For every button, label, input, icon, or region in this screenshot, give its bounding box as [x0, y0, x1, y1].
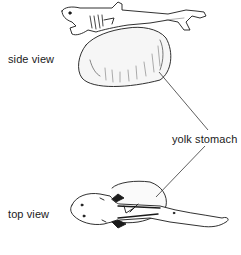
top-view-embryo [71, 181, 228, 228]
leader-line-side [159, 72, 208, 130]
side-yolk-sac [79, 27, 171, 86]
top-view-label: top view [8, 208, 49, 220]
side-view-label: side view [8, 53, 54, 65]
leader-line-top [156, 146, 205, 197]
side-view-embryo [62, 2, 206, 87]
yolk-stomach-label: yolk stomach [172, 133, 237, 145]
